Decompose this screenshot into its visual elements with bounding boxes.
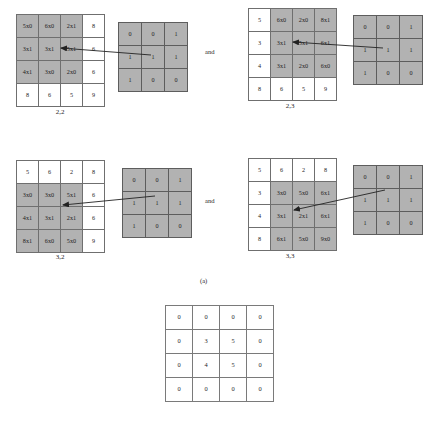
kernel-cell: 1 [400,39,423,62]
table-row: 5x0 6x0 2x1 8 [17,15,105,38]
image-cell: 2x1 [61,15,83,38]
kernel-cell: 0 [377,16,400,39]
kernel-grid-2-2: 0 0 1 1 1 1 1 0 0 [118,22,188,92]
image-cell: 9 [83,84,105,107]
image-cell: 6x0 [271,9,293,32]
image-cell: 8 [249,228,271,251]
kernel-cell: 1 [165,23,188,46]
image-cell: 8 [83,15,105,38]
table-row: 8 6 5 9 [249,78,337,101]
kernel-cell: 0 [123,169,146,192]
subfigure-label: (a) [200,277,207,284]
kernel-cell: 0 [354,166,377,189]
image-cell: 5 [249,9,271,32]
table-row: 0 0 1 [354,166,423,189]
kernel-cell: 0 [146,215,169,238]
image-cell: 3x1 [39,207,61,230]
panel-3-2: 5 6 2 8 3x0 3x0 5x1 6 4x1 3x1 2x1 6 8x1 … [0,150,221,275]
output-cell: 0 [166,378,193,402]
kernel-cell: 1 [377,189,400,212]
output-cell: 0 [193,378,220,402]
image-cell: 5x0 [61,230,83,253]
table-row: 8 6 5 9 [17,84,105,107]
kernel-cell: 1 [354,189,377,212]
kernel-cell: 0 [146,169,169,192]
table-row: 0 0 1 [119,23,188,46]
image-grid-2-3: 5 6x0 2x0 8x1 3 3x1 5x1 6x1 4 3x1 2x0 6x… [248,8,337,101]
kernel-cell: 1 [377,39,400,62]
output-cell: 0 [220,378,247,402]
image-cell: 8 [17,84,39,107]
output-cell: 3 [193,330,220,354]
kernel-cell: 1 [146,192,169,215]
table-row: 1 0 0 [354,212,423,235]
kernel-cell: 1 [142,46,165,69]
kernel-cell: 1 [119,69,142,92]
output-cell: 5 [220,330,247,354]
image-cell: 9 [83,230,105,253]
image-cell: 5x0 [17,15,39,38]
image-cell: 6 [83,207,105,230]
table-row: 0 0 0 0 [166,378,274,402]
image-cell: 6x0 [39,230,61,253]
table-row: 1 1 1 [123,192,192,215]
image-cell: 5x1 [293,32,315,55]
image-cell: 3x0 [271,182,293,205]
table-row: 8 6x1 5x0 9x0 [249,228,337,251]
panel-3-3: 5 6 2 8 3 3x0 5x0 6x1 4 3x1 2x1 6x1 8 6x… [230,150,442,275]
image-cell: 4x1 [17,61,39,84]
kernel-cell: 0 [400,212,423,235]
image-cell: 3x0 [39,184,61,207]
output-cell: 0 [247,330,274,354]
kernel-cell: 0 [400,62,423,85]
image-cell: 6x0 [315,55,337,78]
panel-caption-2-2: 2,2 [40,108,80,116]
image-cell: 4 [249,55,271,78]
table-row: 3 3x0 5x0 6x1 [249,182,337,205]
image-cell: 6x1 [315,32,337,55]
table-row: 5 6 2 8 [249,159,337,182]
output-cell: 0 [166,306,193,330]
table-row: 5 6x0 2x0 8x1 [249,9,337,32]
image-cell: 3x0 [17,184,39,207]
image-cell: 3x1 [271,55,293,78]
image-cell: 6x1 [271,228,293,251]
table-row: 1 0 0 [119,69,188,92]
image-cell: 4 [249,205,271,228]
kernel-cell: 0 [142,23,165,46]
image-cell: 3x0 [39,61,61,84]
kernel-grid-3-2: 0 0 1 1 1 1 1 0 0 [122,168,192,238]
output-cell: 0 [166,354,193,378]
image-cell: 6 [271,159,293,182]
image-cell: 6 [83,184,105,207]
image-cell: 4x1 [17,207,39,230]
panel-2-3: 5 6x0 2x0 8x1 3 3x1 5x1 6x1 4 3x1 2x0 6x… [230,0,442,140]
panel-caption-3-2: 3,2 [40,253,80,261]
image-cell: 9 [315,78,337,101]
output-cell: 0 [247,306,274,330]
table-row: 3x0 3x0 5x1 6 [17,184,105,207]
kernel-cell: 1 [123,215,146,238]
image-cell: 2x1 [61,207,83,230]
output-cell: 5 [220,354,247,378]
kernel-cell: 1 [354,62,377,85]
image-cell: 6 [83,61,105,84]
output-cell: 0 [220,306,247,330]
kernel-cell: 0 [165,69,188,92]
panel-caption-2-3: 2,3 [270,102,310,110]
image-cell: 3x1 [271,32,293,55]
output-cell: 0 [247,354,274,378]
table-row: 0 0 1 [354,16,423,39]
image-cell: 3 [249,32,271,55]
table-row: 1 1 1 [119,46,188,69]
image-cell: 6 [39,161,61,184]
table-row: 1 0 0 [354,62,423,85]
image-cell: 3x1 [17,38,39,61]
image-cell: 2x0 [61,61,83,84]
image-cell: 5x1 [61,38,83,61]
image-cell: 5 [293,78,315,101]
table-row: 5 6 2 8 [17,161,105,184]
image-cell: 3x1 [271,205,293,228]
kernel-cell: 1 [119,46,142,69]
image-cell: 6x1 [315,205,337,228]
